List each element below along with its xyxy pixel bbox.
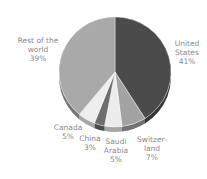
label-canada: Canada 5% <box>38 123 98 141</box>
label-rest-of-the-world: Rest of the world 39% <box>8 36 68 63</box>
pie-slices <box>59 17 171 127</box>
label-united-states: United States 41% <box>157 39 207 66</box>
